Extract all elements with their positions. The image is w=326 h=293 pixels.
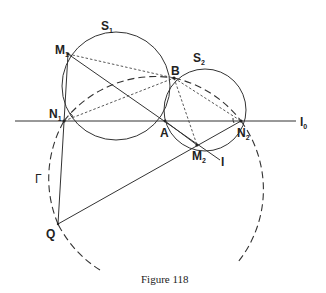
point-n1	[62, 119, 65, 122]
label-gamma: Γ	[35, 172, 42, 186]
label-n2: N2	[237, 126, 250, 141]
label-l0: l0	[300, 115, 307, 130]
dotted-n1-b	[64, 78, 174, 121]
dotted-b-n2	[174, 78, 241, 121]
label-q: Q	[46, 227, 55, 241]
label-s2: S2	[193, 51, 205, 66]
circle-gamma	[49, 76, 264, 270]
dotted-m1-b	[68, 54, 174, 78]
dotted-b-m2	[174, 78, 197, 145]
segment-q-n2	[58, 121, 241, 224]
figure-caption: Figure 118	[141, 273, 189, 285]
label-s1: S1	[101, 19, 113, 34]
label-n1: N1	[49, 107, 62, 122]
label-b: B	[171, 64, 180, 78]
segment-m1-q	[58, 54, 68, 224]
point-m2	[195, 143, 198, 146]
point-q	[57, 223, 59, 225]
label-m1: M1	[55, 43, 69, 58]
point-a	[164, 120, 167, 123]
geometry-diagram: S1 S2 M1 N1 A B N2 M2 l l0 Q Γ Figure 11…	[0, 0, 326, 293]
circle-s2	[164, 69, 246, 151]
label-l: l	[221, 155, 224, 169]
segment-a-m2	[165, 121, 197, 145]
point-n2	[239, 119, 242, 122]
label-a: A	[160, 126, 169, 140]
